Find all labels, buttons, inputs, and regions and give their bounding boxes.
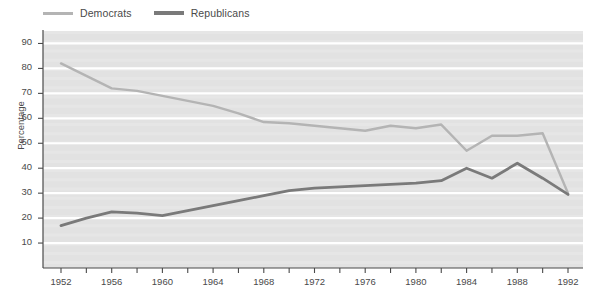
y-tick-label: 40 xyxy=(8,162,32,172)
x-tick-label: 1972 xyxy=(295,277,335,287)
y-tick-label: 50 xyxy=(8,137,32,147)
y-tick-label: 10 xyxy=(8,237,32,247)
x-tick-label: 1992 xyxy=(548,277,588,287)
y-tick-label: 30 xyxy=(8,187,32,197)
x-tick-label: 1956 xyxy=(92,277,132,287)
plot-background xyxy=(43,31,583,268)
x-tick-label: 1964 xyxy=(193,277,233,287)
x-tick-label: 1988 xyxy=(497,277,537,287)
x-tick-label: 1960 xyxy=(142,277,182,287)
y-tick-label: 80 xyxy=(8,62,32,72)
x-tick-label: 1952 xyxy=(41,277,81,287)
y-tick-label: 20 xyxy=(8,212,32,222)
x-tick-label: 1980 xyxy=(396,277,436,287)
x-tick-label: 1976 xyxy=(345,277,385,287)
y-tick-label: 60 xyxy=(8,112,32,122)
x-tick-label: 1984 xyxy=(447,277,487,287)
x-tick-label: 1968 xyxy=(244,277,284,287)
line-chart: Democrats Republicans Percentage 1020304… xyxy=(0,0,594,297)
y-tick-label: 90 xyxy=(8,37,32,47)
plot-canvas xyxy=(0,0,594,297)
y-tick-label: 70 xyxy=(8,87,32,97)
